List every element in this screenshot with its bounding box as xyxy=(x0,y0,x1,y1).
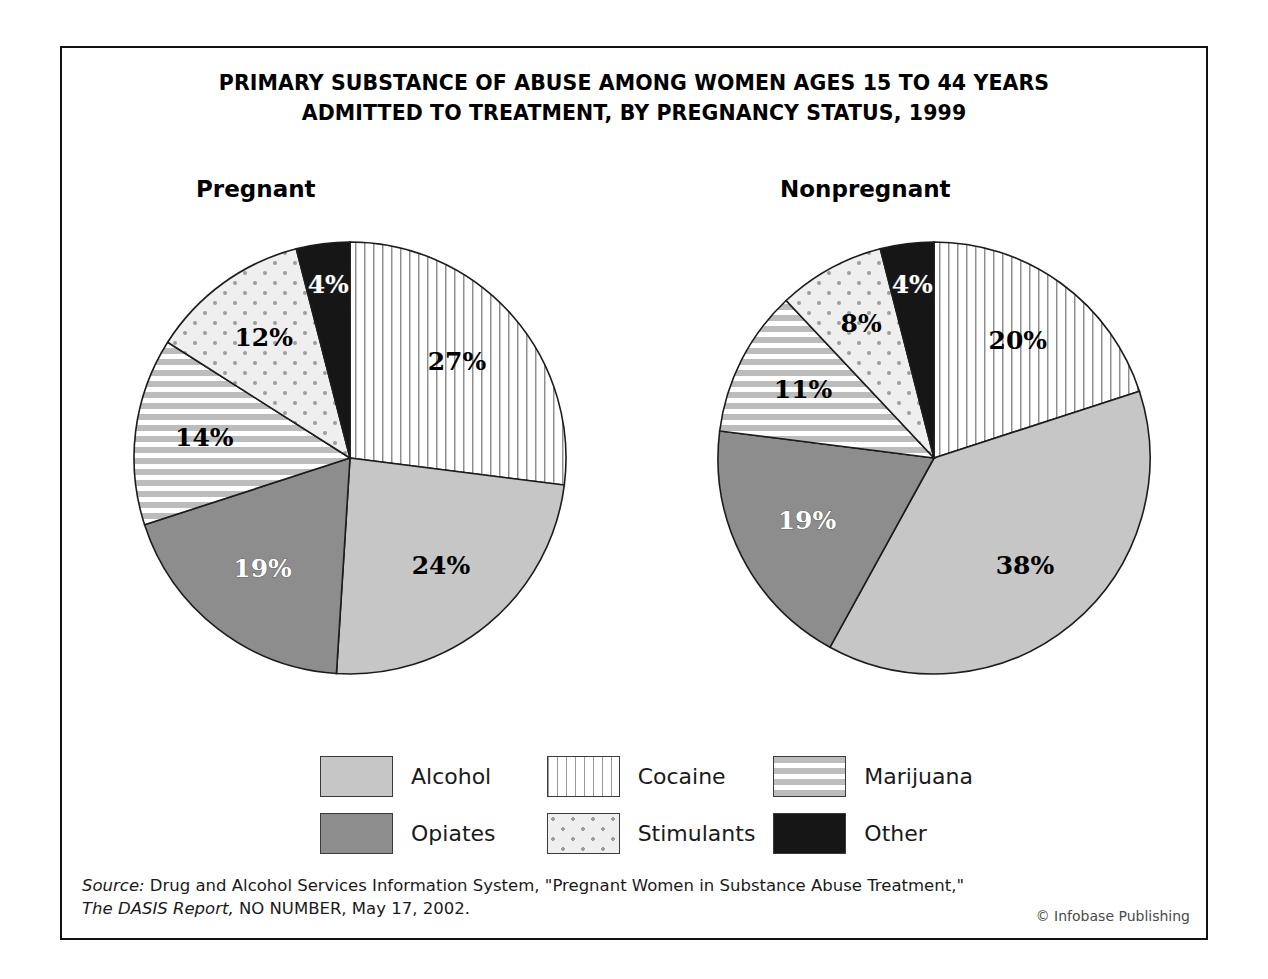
legend-label-marijuana: Marijuana xyxy=(864,764,973,789)
pie-slice-label-marijuana: 14% xyxy=(175,423,234,452)
legend-label-stimulants: Stimulants xyxy=(638,821,756,846)
pie-title-nonpregnant: Nonpregnant xyxy=(780,176,951,202)
legend-item-opiates[interactable]: Opiates xyxy=(320,805,547,862)
source-report-title: The DASIS Report, xyxy=(82,899,234,918)
legend-swatch-other xyxy=(773,813,846,854)
source-label: Source: xyxy=(82,876,145,895)
pie-slice-label-opiates: 19% xyxy=(778,506,837,535)
pie-chart-nonpregnant: 20%38%19%11%8%4% xyxy=(714,238,1154,678)
source-text-1: Drug and Alcohol Services Information Sy… xyxy=(145,876,964,895)
source-note: Source: Drug and Alcohol Services Inform… xyxy=(82,874,964,920)
legend-swatch-alcohol xyxy=(320,756,393,797)
pie-slice-label-stimulants: 12% xyxy=(234,323,293,352)
legend-item-alcohol[interactable]: Alcohol xyxy=(320,748,547,805)
source-line-1: Source: Drug and Alcohol Services Inform… xyxy=(82,874,964,897)
pie-slices-nonpregnant xyxy=(718,242,1150,674)
legend-item-other[interactable]: Other xyxy=(773,805,1000,862)
pie-slice-label-marijuana: 11% xyxy=(774,375,833,404)
pie-slice-label-other: 4% xyxy=(308,270,349,299)
pie-slice-label-alcohol: 38% xyxy=(996,551,1055,580)
pie-slice-label-other: 4% xyxy=(892,270,933,299)
pie-slice-label-opiates: 19% xyxy=(233,554,292,583)
legend-item-marijuana[interactable]: Marijuana xyxy=(773,748,1000,805)
chart-frame: PRIMARY SUBSTANCE OF ABUSE AMONG WOMEN A… xyxy=(60,46,1208,940)
legend-label-alcohol: Alcohol xyxy=(411,764,491,789)
legend-swatch-marijuana xyxy=(773,756,846,797)
legend: Alcohol Cocaine Marijuana Opiates Stimul… xyxy=(320,748,1000,862)
legend-item-cocaine[interactable]: Cocaine xyxy=(547,748,774,805)
legend-swatch-cocaine xyxy=(547,756,620,797)
chart-title-line-1: PRIMARY SUBSTANCE OF ABUSE AMONG WOMEN A… xyxy=(62,68,1206,98)
pie-slice-label-cocaine: 20% xyxy=(989,326,1048,355)
pie-chart-pregnant: 27%24%19%14%12%4% xyxy=(130,238,570,678)
chart-title: PRIMARY SUBSTANCE OF ABUSE AMONG WOMEN A… xyxy=(62,68,1206,128)
pie-svg-nonpregnant: 20%38%19%11%8%4% xyxy=(714,238,1154,678)
pie-title-pregnant: Pregnant xyxy=(196,176,316,202)
pie-slice-label-stimulants: 8% xyxy=(841,309,882,338)
source-text-2: NO NUMBER, May 17, 2002. xyxy=(234,899,470,918)
pie-svg-pregnant: 27%24%19%14%12%4% xyxy=(130,238,570,678)
pie-slices-pregnant xyxy=(134,242,566,674)
legend-label-opiates: Opiates xyxy=(411,821,496,846)
legend-label-cocaine: Cocaine xyxy=(638,764,726,789)
legend-item-stimulants[interactable]: Stimulants xyxy=(547,805,774,862)
publisher-credit: © Infobase Publishing xyxy=(1036,908,1190,924)
pie-slice-label-cocaine: 27% xyxy=(428,347,487,376)
legend-swatch-opiates xyxy=(320,813,393,854)
legend-label-other: Other xyxy=(864,821,926,846)
pie-slice-label-alcohol: 24% xyxy=(412,551,471,580)
source-line-2: The DASIS Report, NO NUMBER, May 17, 200… xyxy=(82,897,964,920)
chart-title-line-2: ADMITTED TO TREATMENT, BY PREGNANCY STAT… xyxy=(62,98,1206,128)
legend-swatch-stimulants xyxy=(547,813,620,854)
